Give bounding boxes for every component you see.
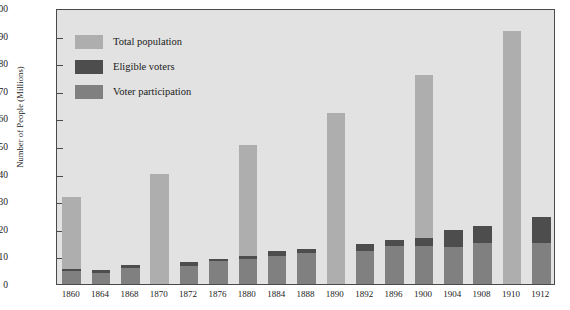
legend-swatch: [75, 35, 103, 49]
bar-group: [503, 8, 522, 284]
bar-voter-participation: [121, 268, 140, 284]
y-axis-tick-label: 80: [0, 59, 8, 69]
y-axis-title: Number of People (Millions): [15, 37, 25, 197]
bar-group: [356, 8, 375, 284]
y-axis-tick-label: 100: [0, 4, 8, 14]
x-axis-tick-label: 1912: [520, 289, 560, 299]
bar-group: [385, 8, 404, 284]
bar-group: [209, 8, 228, 284]
y-axis-tick-label: 30: [0, 197, 8, 207]
legend-label: Total population: [113, 34, 182, 50]
bar-voter-participation: [473, 243, 492, 284]
y-axis-tick-label: 50: [0, 142, 8, 152]
bar-voter-participation: [209, 261, 228, 284]
legend-label: Eligible voters: [113, 59, 175, 75]
bar-voter-participation: [62, 271, 81, 284]
y-axis-tick-label: 60: [0, 114, 8, 124]
plot-area: [56, 9, 555, 285]
y-axis-tick-label: 70: [0, 87, 8, 97]
bar-voter-participation: [297, 253, 316, 284]
bar-group: [180, 8, 199, 284]
y-axis-tick-label: 10: [0, 252, 8, 262]
bar-voter-participation: [268, 256, 287, 284]
y-axis-tick-label: 20: [0, 225, 8, 235]
plot-inner: [57, 10, 554, 284]
bar-total-population: [150, 174, 169, 284]
chart-container: Number of People (Millions) 010203040506…: [0, 0, 570, 310]
y-axis-tick-label: 0: [0, 280, 8, 290]
bar-voter-participation: [444, 247, 463, 284]
bar-group: [92, 8, 111, 284]
bar-group: [327, 8, 346, 284]
bar-voter-participation: [180, 266, 199, 284]
y-axis-tick-label: 90: [0, 32, 8, 42]
legend-label: Voter participation: [113, 84, 191, 100]
legend-swatch: [75, 85, 103, 99]
bar-voter-participation: [385, 246, 404, 284]
bar-group: [297, 8, 316, 284]
bar-voter-participation: [415, 246, 434, 284]
bar-group: [62, 8, 81, 284]
bar-group: [268, 8, 287, 284]
bar-voter-participation: [532, 243, 551, 284]
bar-group: [532, 8, 551, 284]
bar-group: [415, 8, 434, 284]
y-axis-tick-label: 40: [0, 170, 8, 180]
bar-voter-participation: [239, 259, 258, 284]
bar-group: [444, 8, 463, 284]
bar-voter-participation: [92, 273, 111, 284]
bar-total-population: [327, 113, 346, 284]
bar-voter-participation: [356, 251, 375, 284]
legend-swatch: [75, 60, 103, 74]
bar-group: [473, 8, 492, 284]
bar-group: [239, 8, 258, 284]
bar-total-population: [503, 31, 522, 284]
